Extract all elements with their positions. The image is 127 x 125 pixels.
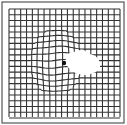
grid-line-horizontal [9, 40, 120, 43]
fixation-dot [62, 61, 66, 65]
amsler-grid-figure [0, 0, 127, 125]
grid-line-horizontal [9, 78, 120, 81]
grid-line-horizontal [9, 66, 120, 68]
grid-line-horizontal [9, 52, 120, 54]
grid-line-horizontal [9, 84, 120, 87]
grid-line-horizontal [9, 30, 120, 31]
scotoma-patch [66, 50, 100, 76]
grid-line-horizontal [9, 35, 120, 37]
grid-line-horizontal [9, 46, 120, 49]
grid-line-horizontal [9, 89, 120, 91]
amsler-grid [0, 0, 127, 125]
grid-line-horizontal [9, 72, 120, 75]
